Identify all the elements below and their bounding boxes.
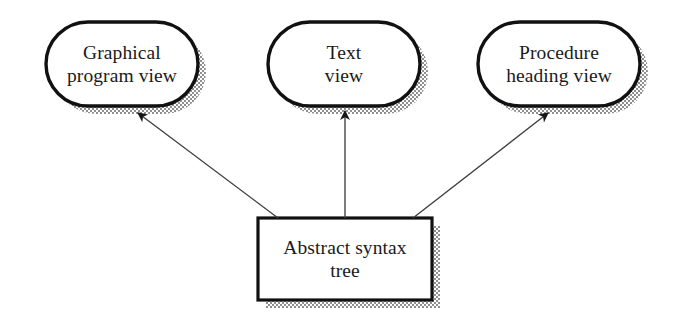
edge-to-procedure-heading-view: [413, 113, 548, 218]
edge-to-graphical-program-view: [138, 113, 278, 218]
node-graphical-program-view: [46, 22, 198, 106]
diagram-canvas: Graphical program view Text view Procedu…: [0, 0, 695, 330]
node-procedure-heading-view: [478, 22, 640, 106]
edge-layer: [138, 111, 548, 218]
node-shape-layer: [46, 22, 640, 300]
node-text-view: [268, 22, 420, 106]
node-abstract-syntax-tree: [258, 218, 432, 300]
diagram-graphics: [0, 0, 695, 330]
